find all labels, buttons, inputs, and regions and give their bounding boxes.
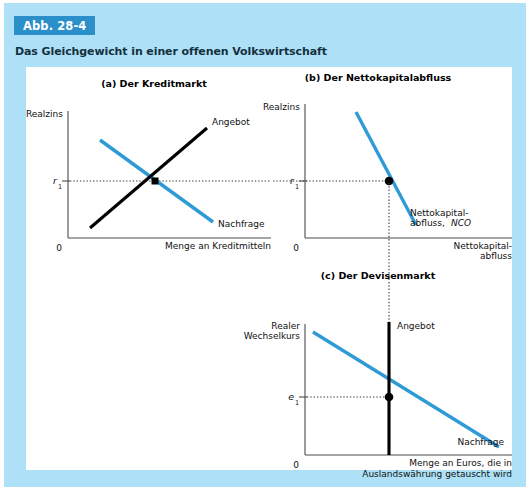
panel-c-equilibrium-label: e xyxy=(288,391,294,402)
panel-a-demand-label: Nachfrage xyxy=(218,219,265,229)
panel-c-supply-label: Angebot xyxy=(397,321,435,331)
panel-a-supply-curve xyxy=(90,128,207,228)
figure-subtitle: Das Gleichgewicht in einer offenen Volks… xyxy=(15,45,327,58)
panel-a-equilibrium-subscript: 1 xyxy=(58,183,62,191)
panel-b-curve-label-line1: Nettokapital- xyxy=(410,208,468,218)
panel-c: (c) Der Devisenmarkt Realer Wechselkurs … xyxy=(244,270,512,479)
panel-c-origin-label: 0 xyxy=(293,460,299,470)
panel-a-x-axis-label: Menge an Kreditmitteln xyxy=(165,241,271,251)
panel-c-equilibrium-subscript: 1 xyxy=(295,399,299,407)
panel-b-y-axis-label: Realzins xyxy=(263,102,300,112)
panel-c-x-axis-label-line2: Auslandswährung getauscht wird xyxy=(362,469,512,479)
panel-c-x-axis-label-line1: Menge an Euros, die in xyxy=(409,458,512,468)
panel-a-title: (a) Der Kreditmarkt xyxy=(101,78,207,89)
figure-plot-panel: (a) Der Kreditmarkt Realzins Menge an Kr… xyxy=(26,67,512,470)
panel-a-supply-label: Angebot xyxy=(212,117,250,127)
figure-number-label: Abb. 28-4 xyxy=(23,19,86,33)
figure-root: Abb. 28-4 Das Gleichgewicht in einer off… xyxy=(0,0,530,490)
figure-svg: (a) Der Kreditmarkt Realzins Menge an Kr… xyxy=(26,67,512,470)
panel-b-equilibrium-subscript: 1 xyxy=(295,183,299,191)
panel-c-y-axis-label-line1: Realer xyxy=(271,321,300,331)
panel-b-nco-curve xyxy=(356,112,416,225)
panel-a: (a) Der Kreditmarkt Realzins Menge an Kr… xyxy=(26,78,271,253)
panel-c-equilibrium-marker xyxy=(385,393,394,402)
panel-b-x-axis-label-line2: abfluss xyxy=(480,251,512,261)
panel-a-origin-label: 0 xyxy=(56,243,62,253)
panel-a-equilibrium-marker xyxy=(152,178,159,185)
panel-b-x-axis-label-line1: Nettokapital- xyxy=(454,241,512,251)
panel-b-curve-label-line2: abfluss, xyxy=(410,218,445,228)
panel-c-demand-label: Nachfrage xyxy=(457,437,504,447)
panel-c-demand-curve xyxy=(313,332,499,447)
figure-number-badge: Abb. 28-4 xyxy=(14,16,95,35)
panel-c-y-axis-label-line2: Wechselkurs xyxy=(244,331,301,341)
panel-b-title: (b) Der Nettokapitalabfluss xyxy=(305,72,452,83)
panel-b: (b) Der Nettokapitalabfluss Realzins r 1… xyxy=(263,72,512,261)
panel-c-title: (c) Der Devisenmarkt xyxy=(321,270,436,281)
panel-b-curve-label-nco: NCO xyxy=(451,218,471,228)
panel-a-y-axis-label: Realzins xyxy=(26,109,63,119)
panel-b-origin-label: 0 xyxy=(293,243,299,253)
